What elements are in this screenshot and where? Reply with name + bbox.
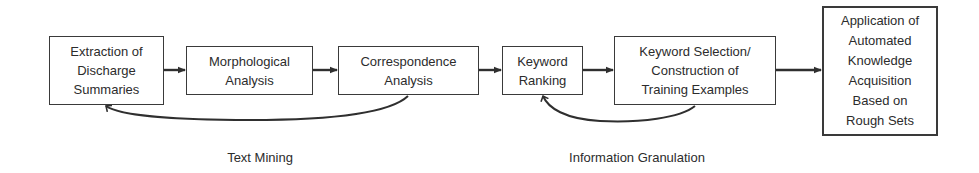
node-keyword-ranking: Keyword Ranking bbox=[502, 46, 583, 95]
node-label: Correspondence Analysis bbox=[360, 52, 456, 90]
node-label: Keyword Selection/ Construction of Train… bbox=[639, 42, 750, 99]
node-label: Extraction of Discharge Summaries bbox=[70, 42, 142, 99]
node-correspondence-analysis: Correspondence Analysis bbox=[338, 46, 479, 95]
node-label: Keyword Ranking bbox=[517, 52, 568, 90]
node-extraction-of-discharge-summaries: Extraction of Discharge Summaries bbox=[49, 36, 164, 105]
node-label: Application of Automated Knowledge Acqui… bbox=[841, 11, 919, 131]
group-label-text-mining: Text Mining bbox=[227, 150, 293, 165]
node-application-rough-sets: Application of Automated Knowledge Acqui… bbox=[822, 6, 938, 136]
node-morphological-analysis: Morphological Analysis bbox=[186, 46, 313, 95]
node-label: Morphological Analysis bbox=[209, 52, 290, 90]
node-keyword-selection-construction: Keyword Selection/ Construction of Train… bbox=[614, 36, 776, 105]
process-flow-diagram: Extraction of Discharge Summaries Morpho… bbox=[0, 0, 979, 173]
group-label-information-granulation: Information Granulation bbox=[569, 150, 705, 165]
